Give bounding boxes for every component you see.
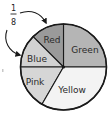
slice-label-red: Red — [43, 35, 60, 45]
slice-label-blue: Blue — [27, 54, 47, 64]
slice-label-green: Green — [71, 45, 98, 55]
scan-mark — [2, 69, 4, 72]
fraction-annotation: 1 8 — [11, 4, 17, 27]
fraction-numerator: 1 — [11, 4, 16, 13]
pie-diagram: GreenRedBluePinkYellow 1 8 — [0, 0, 112, 123]
arrow-to-red-icon — [20, 11, 46, 23]
arrow-to-blue-icon — [6, 30, 20, 55]
pie-center-dot — [62, 65, 65, 68]
fraction-denominator: 8 — [11, 18, 16, 27]
slice-label-yellow: Yellow — [57, 85, 86, 95]
slice-label-pink: Pink — [26, 77, 45, 87]
